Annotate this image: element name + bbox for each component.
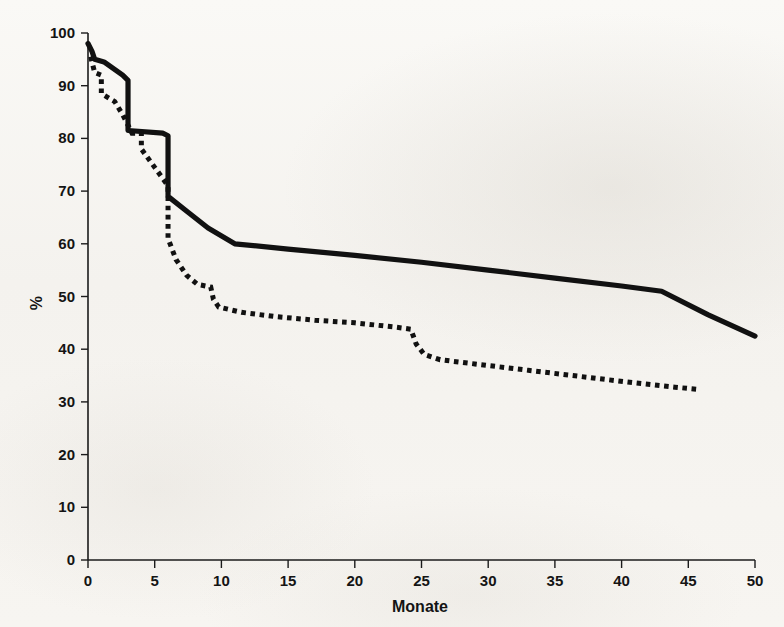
x-tick-label: 10 (213, 572, 230, 589)
x-tick-label: 20 (346, 572, 363, 589)
data-series-group (88, 44, 755, 390)
y-tick-label: 40 (58, 340, 75, 357)
y-tick-label: 0 (67, 551, 75, 568)
y-tick-label: 50 (58, 288, 75, 305)
series-line-solid-curve (88, 44, 755, 336)
axes-group (88, 33, 755, 560)
y-tick-label: 30 (58, 393, 75, 410)
y-tick-label: 100 (50, 24, 75, 41)
x-tick-label: 0 (84, 572, 92, 589)
series-line-dotted-curve (91, 57, 697, 390)
x-tick-label: 5 (151, 572, 159, 589)
x-axis-ticks: 05101520253035404550 (84, 560, 764, 589)
x-tick-label: 50 (747, 572, 764, 589)
y-tick-label: 10 (58, 498, 75, 515)
y-axis-title: % (28, 296, 45, 310)
x-tick-label: 40 (613, 572, 630, 589)
y-tick-label: 20 (58, 446, 75, 463)
x-tick-label: 45 (680, 572, 697, 589)
y-axis-ticks: 0102030405060708090100 (50, 24, 88, 568)
figure-panel: 0102030405060708090100 05101520253035404… (0, 0, 784, 627)
y-tick-label: 60 (58, 235, 75, 252)
survival-curve-chart: 0102030405060708090100 05101520253035404… (0, 0, 784, 627)
x-tick-label: 15 (280, 572, 297, 589)
x-tick-label: 35 (547, 572, 564, 589)
x-tick-label: 25 (413, 572, 430, 589)
y-tick-label: 70 (58, 182, 75, 199)
y-tick-label: 80 (58, 129, 75, 146)
y-tick-label: 90 (58, 77, 75, 94)
x-tick-label: 30 (480, 572, 497, 589)
x-axis-title: Monate (392, 598, 448, 615)
